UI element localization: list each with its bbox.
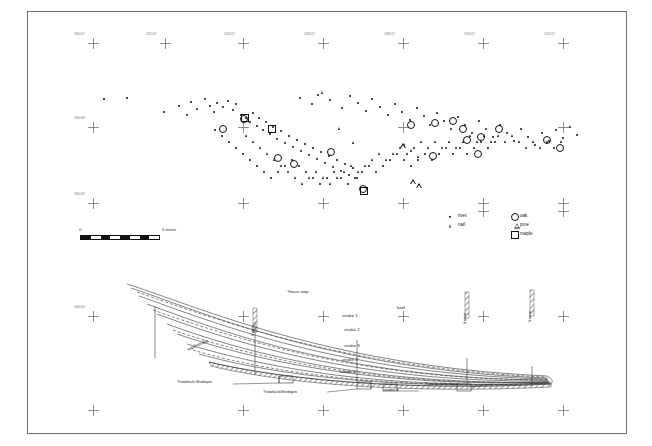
grid-label: 188/47 — [384, 33, 395, 36]
label-strake-1: strake 1 — [342, 314, 358, 318]
find-marker-maple — [268, 125, 276, 133]
find-marker-nail — [406, 152, 408, 155]
find-marker-pine — [401, 143, 407, 148]
grid-label: 180/45 — [74, 193, 85, 196]
find-marker-oak — [463, 136, 471, 144]
label-rowlock-left: ?rowlock /tholepin — [177, 380, 212, 384]
find-marker-nail — [308, 176, 310, 179]
site-plan-plate: 180/47 182/47 184/47 186/47 188/47 190/4… — [0, 0, 652, 446]
survey-cross — [478, 405, 489, 416]
find-marker-nail — [417, 155, 419, 158]
legend-label: rivet — [458, 214, 467, 219]
find-marker-nail — [490, 140, 492, 143]
find-marker-maple — [360, 187, 368, 195]
find-marker-nail — [392, 152, 394, 155]
survey-cross — [238, 122, 249, 133]
find-marker-nail — [336, 176, 338, 179]
open-circle-icon — [508, 212, 520, 221]
survey-cross — [88, 405, 99, 416]
find-marker-oak — [429, 152, 437, 160]
find-marker-nail — [338, 127, 340, 130]
find-marker-oak — [495, 125, 503, 133]
legend-item-pine: pine — [508, 221, 533, 230]
find-marker-nail — [301, 182, 303, 185]
survey-cross — [238, 405, 249, 416]
find-marker-oak — [474, 150, 482, 158]
find-marker-oak — [556, 144, 564, 152]
find-marker-nail — [511, 134, 513, 137]
survey-cross — [88, 38, 99, 49]
legend-item-maple: maple — [508, 230, 533, 239]
find-marker-oak — [431, 119, 439, 127]
find-marker-nail — [560, 140, 562, 143]
label-strake-6: strake 6 — [383, 388, 399, 392]
find-marker-nail — [294, 176, 296, 179]
survey-cross — [318, 38, 329, 49]
find-marker-nail — [287, 170, 289, 173]
open-triangle-icon — [508, 221, 520, 230]
find-marker-nail — [455, 146, 457, 149]
hull-reconstruction-drawing: ?mast step keel strake 1 strake 2 strake… — [27, 262, 627, 402]
filled-circle-icon — [446, 212, 458, 221]
label-frame-mid: frame — [463, 313, 467, 324]
filled-triangle-icon — [446, 221, 458, 230]
grid-label: 192/47 — [544, 33, 555, 36]
label-strake-2: strake 2 — [344, 328, 360, 332]
survey-cross — [88, 198, 99, 209]
find-marker-nail — [378, 152, 380, 155]
find-marker-pine — [417, 183, 423, 188]
find-marker-nail — [413, 146, 415, 149]
find-marker-nail — [410, 149, 412, 152]
legend-label: pine — [520, 223, 529, 228]
legend-timbers-column: oak pine maple — [508, 212, 533, 239]
find-marker-nail — [532, 140, 534, 143]
legend-item-oak: oak — [508, 212, 533, 221]
find-marker-nail — [553, 146, 555, 149]
find-marker-nail — [322, 176, 324, 179]
label-keel: keel — [397, 306, 405, 310]
open-square-icon — [508, 230, 520, 239]
scale-bar — [80, 235, 160, 240]
find-marker-nail — [525, 146, 527, 149]
find-marker-nail — [434, 140, 436, 143]
survey-cross — [398, 38, 409, 49]
find-marker-nail — [420, 140, 422, 143]
legend-label: oak — [520, 214, 527, 219]
find-marker-nail — [252, 140, 254, 143]
find-marker-nail — [371, 158, 373, 161]
find-marker-oak — [407, 121, 415, 129]
survey-cross — [318, 198, 329, 209]
legend-fastenings-column: rivet nail — [446, 212, 467, 230]
survey-cross — [238, 198, 249, 209]
find-marker-nail — [448, 140, 450, 143]
scale-end-label: 5 metre — [162, 228, 176, 232]
survey-cross — [558, 405, 569, 416]
hull-lines-svg — [27, 262, 627, 402]
find-marker-nail — [427, 146, 429, 149]
survey-cross — [478, 206, 489, 217]
find-marker-oak — [477, 133, 485, 141]
survey-cross — [88, 122, 99, 133]
find-marker-oak — [327, 148, 335, 156]
grid-label: 182/47 — [146, 33, 157, 36]
find-marker-nail — [385, 158, 387, 161]
label-frame-left: frame — [251, 325, 255, 336]
label-rowlock-right: ?rowlock/tholepin — [425, 382, 459, 386]
find-marker-nail — [497, 134, 499, 137]
grid-label: 180/47 — [74, 33, 85, 36]
find-marker-nail — [266, 152, 268, 155]
find-marker-maple — [241, 114, 249, 122]
find-marker-oak — [219, 125, 227, 133]
grid-label: 180/46 — [74, 117, 85, 120]
label-mast-step: ?mast step — [287, 290, 308, 294]
grid-label: 184/47 — [224, 33, 235, 36]
scale-zero-label: 0 — [79, 228, 81, 232]
find-marker-nail — [364, 164, 366, 167]
find-marker-nail — [245, 134, 247, 137]
find-marker-nail — [357, 170, 359, 173]
grid-label: 186/47 — [304, 33, 315, 36]
find-marker-oak — [274, 154, 282, 162]
find-marker-nail — [518, 140, 520, 143]
legend-label: nail — [458, 223, 465, 228]
label-strake-3: strake 3 — [344, 344, 360, 348]
